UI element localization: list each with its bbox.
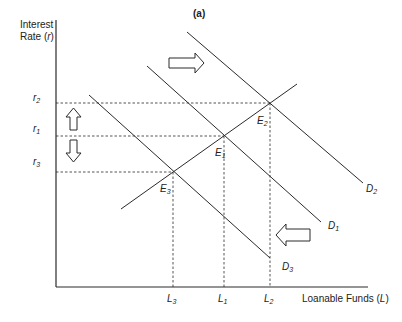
label-d2: D2: [366, 183, 377, 195]
panel-label: (a): [193, 8, 205, 19]
label-e2: E2: [257, 115, 268, 127]
rate-down-arrow-icon: [66, 140, 81, 162]
x-tick-l1: L1: [218, 293, 228, 305]
y-tick-r3: r3: [33, 156, 40, 168]
y-tick-r1: r1: [33, 123, 40, 135]
demand-curve-d3: [89, 95, 270, 258]
shift-left-arrow-icon: [276, 224, 310, 246]
shift-right-arrow-icon: [169, 53, 204, 73]
label-e1: E1: [215, 147, 226, 159]
demand-curve-d1: [147, 66, 321, 222]
label-e3: E3: [160, 183, 171, 195]
y-axis-label-line2: Rate (r): [20, 31, 54, 42]
demand-curve-d2: [187, 32, 363, 183]
y-tick-r2: r2: [33, 92, 40, 104]
label-d1: D1: [328, 220, 339, 232]
label-d3: D3: [282, 261, 293, 273]
loanable-funds-diagram: (a) Interest Rate (r) r2 r1 r3 L3 L1 L2 …: [0, 0, 402, 322]
y-axis-label-line1: Interest: [20, 19, 54, 30]
x-axis-label: Loanable Funds (L): [302, 293, 389, 304]
x-tick-l3: L3: [167, 293, 177, 305]
rate-up-arrow-icon: [66, 108, 81, 130]
x-tick-l2: L2: [264, 293, 274, 305]
